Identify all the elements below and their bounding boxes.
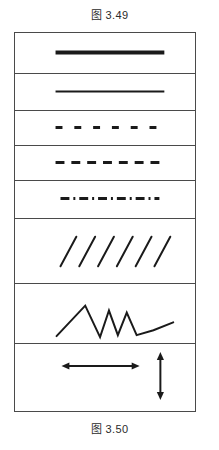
close-dashed-line (15, 146, 195, 180)
zigzag-polyline (15, 284, 195, 343)
line-sample-list (15, 33, 195, 411)
sample-row (15, 181, 195, 219)
sample-row (15, 111, 195, 146)
sample-row (15, 284, 195, 344)
figure-caption-bottom: 图 3.50 (0, 420, 219, 436)
sample-row (15, 219, 195, 284)
sample-row (15, 146, 195, 181)
sample-row (15, 33, 195, 74)
double-headed-arrows (15, 344, 195, 413)
diagonal-hatch-strokes (15, 219, 195, 283)
figure-page: 图 3.49 图 3.50 (0, 0, 219, 450)
dash-dot-line (15, 181, 195, 218)
thick-solid-line (15, 33, 195, 73)
thin-solid-line (15, 74, 195, 110)
wide-dashed-line (15, 111, 195, 145)
line-style-panel (14, 32, 196, 412)
sample-row (15, 74, 195, 111)
figure-caption-top: 图 3.49 (0, 6, 219, 22)
sample-row (15, 344, 195, 413)
